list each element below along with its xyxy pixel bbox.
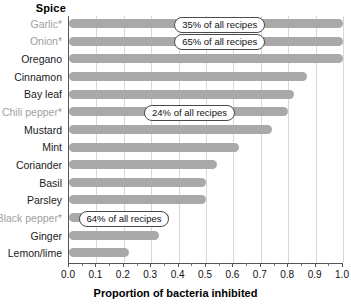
x-tick-label: 0.8 xyxy=(280,269,294,280)
bar xyxy=(69,125,272,134)
x-tick-minor xyxy=(328,263,329,266)
x-tick-minor xyxy=(109,263,110,266)
y-tick-label: Bay leaf xyxy=(0,89,62,100)
bar-row xyxy=(69,69,342,85)
y-tick-label: Garlic* xyxy=(0,19,62,30)
x-tick-major xyxy=(342,263,343,267)
x-tick-minor xyxy=(246,263,247,266)
annotation-callout: 24% of all recipes xyxy=(144,105,235,121)
x-tick-minor xyxy=(137,263,138,266)
x-tick-major xyxy=(287,263,288,267)
spice-bar-chart: Spice Garlic*Onion*OreganoCinnamonBay le… xyxy=(0,0,351,305)
bar xyxy=(69,195,206,204)
bar-row xyxy=(69,175,342,191)
bar-row xyxy=(69,87,342,103)
annotation-callout: 64% of all recipes xyxy=(79,211,170,227)
y-tick-label: Basil xyxy=(0,178,62,189)
y-tick-label: Black pepper* xyxy=(0,213,62,224)
y-tick-label: Mint xyxy=(0,142,62,153)
y-tick-label-group: Garlic*Onion*OreganoCinnamonBay leafChil… xyxy=(0,16,66,263)
x-tick-label: 1.0 xyxy=(335,269,349,280)
x-tick-major xyxy=(315,263,316,267)
x-tick-minor xyxy=(82,263,83,266)
x-tick-major xyxy=(150,263,151,267)
x-tick-major xyxy=(178,263,179,267)
x-tick-major xyxy=(68,263,69,267)
x-tick-major xyxy=(123,263,124,267)
bar xyxy=(69,178,206,187)
bar-row xyxy=(69,245,342,261)
x-tick-label: 0.4 xyxy=(171,269,185,280)
x-tick-label: 0.3 xyxy=(143,269,157,280)
bar xyxy=(69,160,217,169)
bar xyxy=(69,90,294,99)
bar-row xyxy=(69,228,342,244)
y-tick-label: Chili pepper* xyxy=(0,107,62,118)
y-tick-label: Onion* xyxy=(0,36,62,47)
bar xyxy=(69,143,239,152)
bar-row xyxy=(69,51,342,67)
bar-row xyxy=(69,192,342,208)
annotation-callout: 65% of all recipes xyxy=(174,34,265,50)
y-tick-label: Ginger xyxy=(0,231,62,242)
y-tick-label: Oregano xyxy=(0,54,62,65)
y-tick-label: Coriander xyxy=(0,160,62,171)
x-tick-label: 0.9 xyxy=(308,269,322,280)
bar-row xyxy=(69,122,342,138)
bar xyxy=(69,54,343,63)
y-tick-label: Cinnamon xyxy=(0,72,62,83)
x-tick-minor xyxy=(301,263,302,266)
x-tick-major xyxy=(232,263,233,267)
y-tick-label: Parsley xyxy=(0,195,62,206)
y-tick-label: Mustard xyxy=(0,125,62,136)
bar-row xyxy=(69,140,342,156)
x-tick-label: 0.2 xyxy=(116,269,130,280)
x-axis-title: Proportion of bacteria inhibited xyxy=(0,287,351,299)
x-tick-major xyxy=(95,263,96,267)
plot-area: 35% of all recipes65% of all recipes24% … xyxy=(68,16,342,263)
y-axis-title: Spice xyxy=(0,2,66,14)
x-tick-label: 0.5 xyxy=(198,269,212,280)
x-tick-minor xyxy=(191,263,192,266)
bar xyxy=(69,231,159,240)
x-tick-major xyxy=(260,263,261,267)
bar xyxy=(69,72,307,81)
annotation-callout: 35% of all recipes xyxy=(174,17,265,33)
gridline xyxy=(343,16,344,263)
x-tick-minor xyxy=(164,263,165,266)
x-tick-major xyxy=(205,263,206,267)
y-tick-label: Lemon/lime xyxy=(0,248,62,259)
bar-row xyxy=(69,157,342,173)
x-tick-minor xyxy=(274,263,275,266)
x-tick-label: 0.0 xyxy=(61,269,75,280)
x-tick-label: 0.1 xyxy=(88,269,102,280)
x-tick-minor xyxy=(219,263,220,266)
bar xyxy=(69,248,129,257)
x-tick-label: 0.7 xyxy=(253,269,267,280)
x-tick-label: 0.6 xyxy=(225,269,239,280)
